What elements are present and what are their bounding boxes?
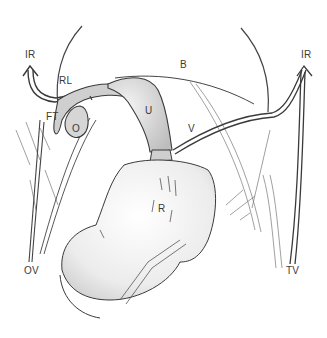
- anatomy-drawing: [0, 0, 327, 338]
- uterus: [108, 78, 172, 152]
- label-v: V: [188, 124, 195, 134]
- label-r: R: [158, 204, 165, 214]
- label-u: U: [145, 106, 152, 116]
- label-rl: RL: [59, 76, 72, 86]
- label-ov: OV: [24, 266, 39, 276]
- label-b: B: [180, 60, 187, 70]
- pelvic-anatomy-figure: IR RL B IR FT O U V R OV TV: [0, 0, 327, 338]
- label-ir-right: IR: [301, 50, 311, 60]
- label-ir-left: IR: [25, 50, 35, 60]
- label-o: O: [72, 124, 80, 134]
- right-vessel: [173, 66, 312, 154]
- pelvic-brim-arcs: [57, 26, 268, 112]
- label-ft: FT: [46, 112, 59, 122]
- label-tv: TV: [286, 266, 299, 276]
- ovarian-vessel: [29, 120, 44, 262]
- rectum: [62, 160, 216, 300]
